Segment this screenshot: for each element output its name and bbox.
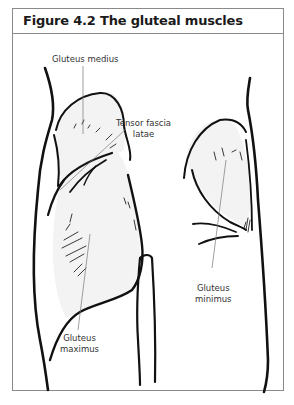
label-gluteus-medius: Gluteus medius <box>52 54 119 65</box>
label-tensor-fascia-latae: Tensor fascia latae <box>116 118 171 140</box>
label-gluteus-maximus: Gluteus maximus <box>60 333 99 355</box>
gluteal-muscles-illustration <box>0 0 294 405</box>
label-gluteus-minimus: Gluteus minimus <box>195 283 232 305</box>
